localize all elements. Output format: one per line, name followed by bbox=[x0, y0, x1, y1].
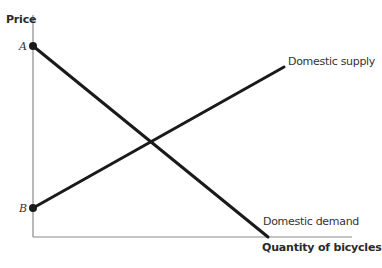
domestic-supply-label: Domestic supply bbox=[288, 56, 375, 67]
domestic-demand-label: Domestic demand bbox=[263, 216, 359, 227]
y-axis-title: Price bbox=[6, 14, 36, 25]
point-a-label: A bbox=[19, 41, 27, 52]
point-a-marker bbox=[29, 42, 37, 50]
x-axis-title: Quantity of bicycles bbox=[262, 242, 382, 253]
domestic-supply-line bbox=[33, 67, 284, 208]
point-b-label: B bbox=[19, 203, 27, 214]
point-b-marker bbox=[29, 204, 37, 212]
